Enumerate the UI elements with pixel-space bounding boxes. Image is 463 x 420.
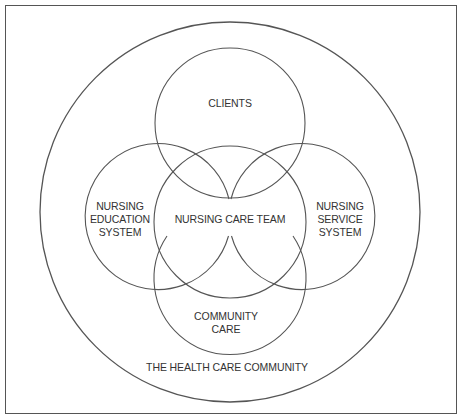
community-care-circle [154, 236, 306, 355]
label-line: SERVICE [316, 213, 364, 226]
venn-diagram [0, 0, 463, 420]
label-line: SYSTEM [90, 226, 150, 239]
health-care-community-label: THE HEALTH CARE COMMUNITY [146, 361, 308, 374]
nursing-education-system-label: NURSING EDUCATION SYSTEM [90, 200, 150, 239]
label-line: CARE [194, 323, 258, 336]
label-line: NURSING CARE TEAM [175, 213, 286, 226]
community-care-label: COMMUNITY CARE [194, 310, 258, 336]
nursing-service-system-label: NURSING SERVICE SYSTEM [316, 200, 364, 239]
label-line: NURSING [90, 200, 150, 213]
label-line: EDUCATION [90, 213, 150, 226]
label-line: THE HEALTH CARE COMMUNITY [146, 361, 308, 374]
label-line: NURSING [316, 200, 364, 213]
label-line: COMMUNITY [194, 310, 258, 323]
label-line: CLIENTS [208, 97, 252, 110]
clients-label: CLIENTS [208, 97, 252, 110]
nursing-care-team-label: NURSING CARE TEAM [175, 213, 286, 226]
label-line: SYSTEM [316, 226, 364, 239]
clients-circle [155, 48, 305, 198]
